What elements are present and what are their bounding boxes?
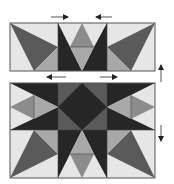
bottom-block-panel (10, 83, 155, 178)
top-row-panel (10, 23, 155, 71)
quilt-diagram (0, 0, 174, 184)
